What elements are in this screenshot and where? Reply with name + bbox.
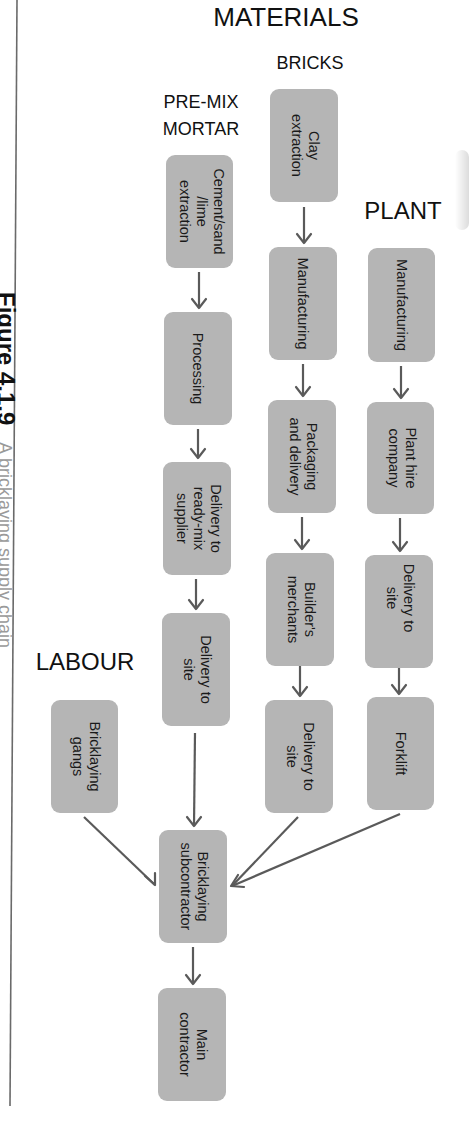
node-cement-sand-lime-extraction: Cement/sand /lime extraction <box>166 155 233 268</box>
node-label-line: Delivery to <box>208 484 224 553</box>
node-label-line: site <box>181 658 197 681</box>
heading-materials: MATERIALS <box>213 2 358 32</box>
node-label-line: Cement/sand <box>211 168 227 254</box>
node-label-line: extraction <box>177 180 193 243</box>
node-delivery-to-ready-mix-supplier: Delivery to ready-mix supplier <box>163 462 231 575</box>
edge-gangs-subcontractor <box>84 817 155 885</box>
node-label-line: site <box>284 745 300 768</box>
node-label-line: /lime <box>194 196 210 227</box>
node-label-line: Delivery to <box>198 635 214 704</box>
node-label-line: subcontractor <box>178 843 194 931</box>
node-bricks-manufacturing: Manufacturing <box>269 247 337 360</box>
node-mortar-delivery-to-site: Delivery to site <box>162 613 230 726</box>
node-plant-hire-company: Plant hire company <box>367 402 434 514</box>
node-label-line: Bricklaying <box>195 851 211 921</box>
node-label-line: supplier <box>174 493 190 544</box>
node-label-line: site <box>384 587 400 610</box>
node-main-contractor: Main contractor <box>158 988 226 1101</box>
page-edge-shadow <box>455 150 469 230</box>
node-packaging-and-delivery: Packaging and delivery <box>268 400 336 513</box>
node-label-line: Delivery to <box>401 564 417 633</box>
node-label-line: Bricklaying <box>87 721 103 791</box>
node-label-line: company <box>386 429 402 489</box>
node-label-line: Manufacturing <box>295 258 311 350</box>
node-label-line: merchants <box>285 576 301 644</box>
node-plant-delivery-to-site: Delivery to site <box>365 555 433 668</box>
node-forklift: Forklift <box>367 697 434 810</box>
node-label-line: Main <box>194 1029 210 1060</box>
heading-premix-line1: PRE-MIX <box>163 92 238 112</box>
node-label-line: gangs <box>70 737 86 777</box>
node-plant-manufacturing: Manufacturing <box>368 248 435 362</box>
node-bricks-delivery-to-site: Delivery to site <box>265 700 333 813</box>
heading-bricks: BRICKS <box>276 53 343 73</box>
heading-plant: PLANT <box>364 197 442 224</box>
node-clay-extraction: Clay extraction <box>270 89 338 202</box>
heading-labour: LABOUR <box>36 648 135 675</box>
edges <box>84 207 408 984</box>
node-label-line: Packaging <box>304 423 320 491</box>
node-label-line: Processing <box>190 333 206 405</box>
heading-premix-line2: MORTAR <box>163 119 239 139</box>
node-label-line: Builder's <box>302 582 318 637</box>
node-label-line: ready-mix <box>191 487 207 551</box>
node-bricklaying-gangs: Bricklaying gangs <box>51 700 118 813</box>
node-label-line: Forklift <box>393 732 409 776</box>
node-label-line: contractor <box>177 1012 193 1077</box>
figure-caption: Figure 4.1.9 A bricklaying supply chain <box>0 292 20 648</box>
node-bricklaying-subcontractor: Bricklaying subcontractor <box>159 830 227 943</box>
supply-chain-diagram: Figure 4.1.9 A bricklaying supply chain … <box>0 0 469 1125</box>
node-label-line: extraction <box>289 114 305 177</box>
node-builders-merchants: Builder's merchants <box>266 553 334 666</box>
caption-figure-number: Figure 4.1.9 <box>0 292 20 425</box>
node-label-line: and delivery <box>287 417 303 496</box>
edge-bricks-delivery-subcontractor <box>232 817 298 886</box>
edge-mortar-delivery-subcontractor <box>194 733 195 826</box>
node-label-line: Clay <box>306 131 322 161</box>
caption-text: A bricklaying supply chain <box>0 442 15 648</box>
node-label-line: Plant hire <box>403 427 419 488</box>
edge-forklift-subcontractor <box>232 814 400 886</box>
node-label-line: Delivery to <box>301 722 317 791</box>
node-processing: Processing <box>164 312 232 425</box>
node-label-line: Manufacturing <box>394 259 410 351</box>
